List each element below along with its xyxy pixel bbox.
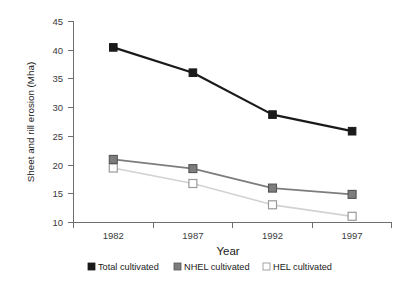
data-point-marker [189, 165, 197, 173]
data-point-marker [269, 111, 277, 119]
y-axis-title: Sheet and rill erosion (Mha) [25, 62, 36, 182]
data-point-marker [348, 212, 356, 220]
data-point-marker [189, 69, 197, 77]
y-tick-label: 35 [52, 73, 63, 84]
data-point-marker [109, 164, 117, 172]
chart-legend: Total cultivated NHEL cultivated HEL cul… [88, 262, 332, 272]
data-point-marker [189, 180, 197, 188]
x-axis-title: Year [216, 245, 239, 257]
x-tick-label: 1992 [262, 230, 283, 241]
legend-label-hel-cultivated: HEL cultivated [273, 262, 332, 272]
data-point-marker [269, 201, 277, 209]
legend-label-total-cultivated: Total cultivated [98, 262, 159, 272]
y-tick-label: 30 [52, 102, 63, 113]
y-tick-label: 40 [52, 45, 63, 56]
x-tick-label: 1982 [103, 230, 124, 241]
y-tick-label: 10 [52, 217, 63, 228]
y-tick-label: 20 [52, 160, 63, 171]
legend-label-nhel-cultivated: NHEL cultivated [184, 262, 250, 272]
x-tick-label: 1997 [342, 230, 363, 241]
data-point-marker [348, 127, 356, 135]
data-point-marker [109, 155, 117, 163]
legend-swatch-hel-cultivated [263, 263, 270, 270]
line-chart: 45 40 35 30 25 20 15 10 1982 1987 1992 1… [0, 0, 415, 286]
y-tick-label: 25 [52, 131, 63, 142]
y-tick-label: 45 [52, 16, 63, 27]
chart-figure: 45 40 35 30 25 20 15 10 1982 1987 1992 1… [0, 0, 415, 286]
chart-background [0, 0, 415, 286]
legend-swatch-nhel-cultivated [174, 263, 181, 270]
data-point-marker [110, 44, 118, 52]
y-tick-label: 15 [52, 188, 63, 199]
data-point-marker [348, 190, 356, 198]
x-tick-label: 1987 [182, 230, 203, 241]
data-point-marker [269, 184, 277, 192]
legend-swatch-total-cultivated [88, 263, 95, 270]
